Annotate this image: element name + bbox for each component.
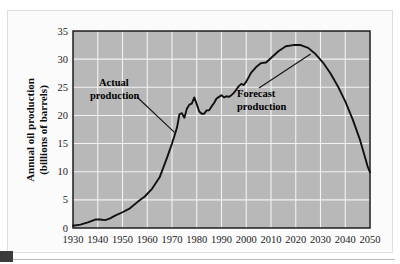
- x-tick-label-2000: 2000: [236, 234, 257, 245]
- forecast-production-label-line-1: Forecast: [237, 88, 276, 99]
- y-tick-label-25: 25: [58, 82, 69, 93]
- oil-production-chart: 1930194019501960197019801990200020102020…: [0, 0, 400, 264]
- x-axis-tick-labels: 1930194019501960197019801990200020102020…: [63, 234, 381, 245]
- y-axis-title: Annual oil production (billions of barre…: [24, 78, 50, 182]
- x-tick-label-1940: 1940: [87, 234, 108, 245]
- x-tick-label-2010: 2010: [261, 234, 282, 245]
- y-tick-label-15: 15: [58, 138, 69, 149]
- x-tick-label-1970: 1970: [162, 234, 183, 245]
- y-axis-title-line-1: Annual oil production: [24, 78, 36, 182]
- forecast-production-label-line-2: production: [237, 101, 287, 112]
- x-tick-label-1980: 1980: [186, 234, 207, 245]
- y-tick-label-0: 0: [63, 223, 68, 234]
- x-tick-label-1950: 1950: [112, 234, 133, 245]
- y-tick-label-10: 10: [58, 166, 69, 177]
- y-tick-label-20: 20: [58, 110, 69, 121]
- actual-production-label-line-2: production: [90, 90, 140, 101]
- x-tick-label-2050: 2050: [360, 234, 381, 245]
- figure-canvas: 1930194019501960197019801990200020102020…: [0, 0, 400, 264]
- y-axis-tick-labels: 05101520253035: [58, 26, 69, 234]
- y-tick-label-5: 5: [63, 194, 68, 205]
- x-tick-label-2040: 2040: [335, 234, 356, 245]
- x-tick-label-2020: 2020: [285, 234, 306, 245]
- actual-production-label-line-1: Actual: [99, 77, 129, 88]
- x-tick-label-1990: 1990: [211, 234, 232, 245]
- y-tick-label-35: 35: [58, 26, 69, 37]
- x-tick-label-2030: 2030: [310, 234, 331, 245]
- y-tick-label-30: 30: [58, 54, 69, 65]
- y-axis-title-line-2: (billions of barrels): [37, 85, 50, 175]
- x-tick-label-1960: 1960: [137, 234, 158, 245]
- x-tick-label-1930: 1930: [63, 234, 84, 245]
